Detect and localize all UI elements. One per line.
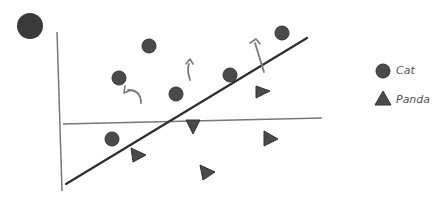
decision-boundary-line: [66, 38, 307, 184]
cat-circle-icon: [275, 26, 289, 40]
cat-circle-icon: [142, 39, 156, 53]
legend: [375, 64, 391, 105]
curved-arrow-icon: [188, 64, 190, 80]
panda-triangle-icon: [186, 120, 200, 134]
title-dot-icon: [17, 13, 43, 39]
legend-label-panda: Panda: [396, 93, 430, 106]
cat-circle-icon: [223, 68, 237, 82]
cat-circle-icon: [169, 87, 183, 101]
panda-triangle-icon: [256, 86, 270, 98]
axes: [57, 32, 322, 191]
diagram-canvas: [0, 0, 441, 200]
panda-triangle-icon: [200, 165, 215, 180]
curved-arrow-icon: [128, 90, 141, 103]
legend-cat-circle-icon: [376, 64, 390, 78]
panda-triangle-icon: [264, 131, 278, 146]
legend-panda-triangle-icon: [375, 91, 391, 105]
panda-triangle-icon: [131, 148, 146, 162]
cat-circle-icon: [105, 132, 119, 146]
cat-circle-icon: [112, 71, 126, 85]
arrowhead-icon: [186, 59, 193, 64]
vertical-axis: [57, 32, 62, 191]
title-dot-icon: [17, 13, 43, 39]
cat-points: [105, 26, 289, 146]
diagonal-line: [66, 38, 307, 184]
legend-label-cat: Cat: [396, 64, 415, 77]
